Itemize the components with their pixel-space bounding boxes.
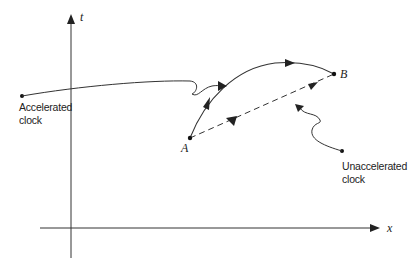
spacetime-diagram [0, 0, 418, 265]
t-axis [67, 14, 75, 258]
point-b-label: B [340, 68, 347, 81]
point-a [188, 136, 192, 140]
point-a-label: A [181, 142, 188, 155]
x-axis-label: x [387, 222, 392, 235]
pointer-arrow-icon [218, 81, 227, 91]
direction-arrow-icon [285, 59, 295, 67]
accelerated-clock-label: Accelerated clock [19, 101, 72, 127]
direction-arrow-icon [203, 97, 210, 110]
direction-arrow-icon [308, 82, 318, 90]
accelerated-clock-label-line2: clock [19, 114, 72, 127]
t-axis-label: t [80, 11, 83, 24]
accelerated-worldline [190, 59, 334, 138]
x-axis-arrow-icon [370, 224, 380, 232]
accelerated-clock-pointer [20, 81, 227, 98]
unaccelerated-clock-label-line1: Unaccelerated [342, 160, 407, 173]
unaccelerated-clock-label: Unaccelerated clock [342, 160, 407, 186]
accelerated-clock-label-line1: Accelerated [19, 101, 72, 114]
x-axis [40, 224, 380, 232]
t-axis-arrow-icon [67, 14, 75, 24]
unaccelerated-clock-label-line2: clock [342, 173, 407, 186]
unaccelerated-clock-pointer [295, 104, 344, 153]
point-b [332, 72, 336, 76]
